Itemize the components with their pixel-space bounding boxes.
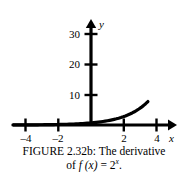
figure-container: 30 20 10 –4 –2 2 4 y x FIGURE 2.32b: The… <box>0 0 188 179</box>
y-tick-label-30: 30 <box>54 29 80 40</box>
caption-line-1: FIGURE 2.32b: The derivative <box>0 144 188 158</box>
plot-area <box>0 0 188 145</box>
exponential-curve <box>13 102 148 125</box>
x-tick-label-2: 2 <box>113 133 135 144</box>
caption-period: . <box>119 159 122 171</box>
y-tick-label-10: 10 <box>54 90 80 101</box>
x-tick-label--2: –2 <box>47 133 69 144</box>
x-tick-label--4: –4 <box>15 133 37 144</box>
caption-equals-base: = 2 <box>98 159 116 171</box>
figure-caption: FIGURE 2.32b: The derivative of f (x) = … <box>0 144 188 172</box>
caption-prefix: of <box>66 159 78 171</box>
y-tick-label-20: 20 <box>54 59 80 70</box>
y-axis-label: y <box>99 19 104 30</box>
caption-function-arg: (x) <box>82 159 98 171</box>
caption-line-2: of f (x) = 2x. <box>0 158 188 172</box>
x-tick-label-4: 4 <box>146 133 168 144</box>
x-axis-label: x <box>169 133 174 144</box>
x-axis-arrow-icon <box>168 120 177 131</box>
y-axis-arrow-icon <box>86 19 96 28</box>
